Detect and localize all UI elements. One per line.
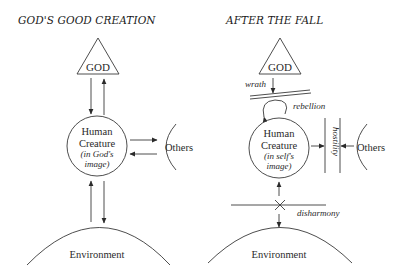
environment-label-left: Environment bbox=[70, 249, 125, 260]
after-fall-title: AFTER THE FALL bbox=[225, 14, 323, 26]
others-node-left: Others bbox=[165, 124, 193, 170]
human-label-3: (in God's bbox=[80, 149, 114, 159]
diagram-canvas: GOD'S GOOD CREATION GOD Human Creature (… bbox=[0, 0, 407, 276]
human-label-1: Human bbox=[82, 126, 114, 137]
rebellion-loop-arrow bbox=[263, 100, 286, 117]
rebellion-label: rebellion bbox=[293, 101, 326, 111]
others-label-right: Others bbox=[357, 142, 385, 153]
others-node-right: Others bbox=[357, 124, 385, 170]
barrier-line-bottom bbox=[250, 93, 311, 99]
wrath-label: wrath bbox=[245, 79, 267, 89]
human-label-3: (in self's bbox=[264, 151, 295, 161]
god-label-left: GOD bbox=[86, 61, 110, 73]
disharmony-label: disharmony bbox=[297, 208, 340, 218]
barrier-line-top bbox=[250, 90, 310, 96]
god-node-left: GOD bbox=[77, 38, 119, 74]
human-label-2: Creature bbox=[79, 138, 115, 149]
environment-node-left: Environment bbox=[27, 228, 170, 266]
god-label-right: GOD bbox=[268, 61, 292, 73]
human-node-right: Human Creature (in self's image) bbox=[249, 118, 309, 178]
good-creation-title: GOD'S GOOD CREATION bbox=[18, 14, 156, 26]
human-label-4: image) bbox=[85, 159, 110, 169]
human-label-4: image) bbox=[267, 161, 292, 171]
human-label-2: Creature bbox=[261, 140, 297, 151]
good-creation-panel: GOD'S GOOD CREATION GOD Human Creature (… bbox=[18, 14, 193, 265]
hostility-label: hostility bbox=[331, 127, 341, 156]
others-label-left: Others bbox=[165, 142, 193, 153]
human-label-1: Human bbox=[264, 128, 296, 139]
environment-node-right: Environment bbox=[208, 228, 352, 264]
after-fall-panel: AFTER THE FALL GOD wrath rebellion Human… bbox=[208, 14, 385, 263]
environment-label-right: Environment bbox=[252, 249, 307, 260]
human-node-left: Human Creature (in God's image) bbox=[67, 116, 127, 176]
god-node-right: GOD bbox=[259, 38, 301, 74]
